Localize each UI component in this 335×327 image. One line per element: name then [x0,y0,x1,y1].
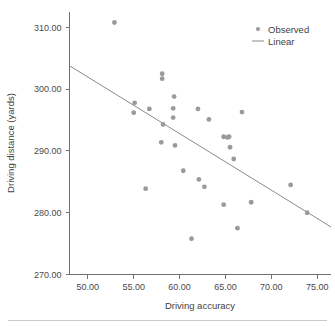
data-point [305,210,310,215]
data-point [161,122,166,127]
data-point [159,140,164,145]
data-point [235,226,240,231]
data-point [172,94,177,99]
chart-canvas: 270.00280.00290.00300.00310.00 50.0055.0… [0,0,335,327]
data-point [231,157,236,162]
x-axis-ticks [88,275,317,279]
data-point [221,202,226,207]
y-tick-label: 310.00 [34,23,62,33]
data-point [196,177,201,182]
x-axis-tick-labels: 50.0055.0060.0065.0070.0075.00 [77,282,329,292]
y-axis-title: Driving distance (yards) [5,93,16,193]
data-point [112,20,117,25]
data-point [132,100,137,105]
y-axis-tick-labels: 270.00280.00290.00300.00310.00 [34,23,62,280]
data-point [147,107,152,112]
legend-observed-label: Observed [268,24,309,35]
x-tick-label: 75.00 [306,282,329,292]
linear-fit-line [70,66,332,227]
x-tick-label: 70.00 [260,282,283,292]
x-tick-label: 60.00 [168,282,191,292]
data-point [225,135,230,140]
legend-observed-marker-icon [256,27,260,31]
data-point [131,110,136,115]
data-point [249,200,254,205]
data-point [288,183,293,188]
data-point [240,110,245,115]
observed-points-group [112,20,309,241]
legend: Observed Linear [252,24,309,47]
data-point [189,236,194,241]
data-point [202,184,207,189]
data-point [160,76,165,81]
data-point [181,168,186,173]
x-tick-label: 55.00 [122,282,145,292]
data-point [173,143,178,148]
data-point [160,71,165,76]
y-tick-label: 300.00 [34,84,62,94]
regression-line-group [70,66,332,227]
y-tick-label: 290.00 [34,146,62,156]
data-point [171,106,176,111]
x-tick-label: 65.00 [214,282,237,292]
plot-axes [70,12,332,275]
legend-linear-label: Linear [268,36,294,47]
y-tick-label: 270.00 [34,270,62,280]
x-tick-label: 50.00 [77,282,100,292]
x-axis-title: Driving accuracy [165,300,235,311]
data-point [143,186,148,191]
y-tick-label: 280.00 [34,208,62,218]
data-point [228,145,233,150]
scatter-plot-figure: 270.00280.00290.00300.00310.00 50.0055.0… [0,0,335,327]
data-point [207,117,212,122]
data-point [196,107,201,112]
y-axis-ticks [66,27,70,274]
data-point [171,115,176,120]
